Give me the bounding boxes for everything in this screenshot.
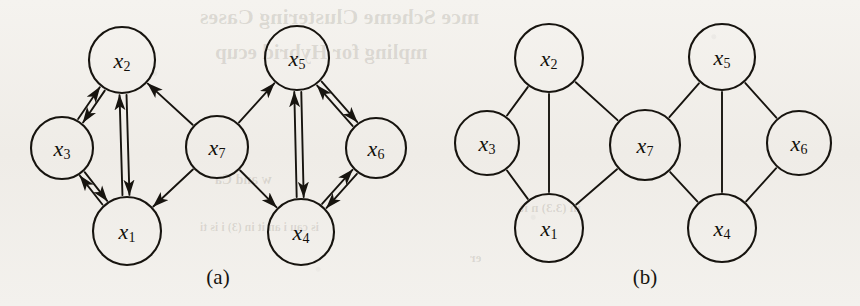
edge-x1-x7 — [576, 169, 617, 204]
arrow-x7-to-x4 — [240, 170, 276, 207]
arrow-x7-to-x5 — [239, 83, 274, 122]
arrow-x5-to-x4 — [301, 92, 303, 197]
panel-a-nodes: x2x3x1x7x5x6x4 — [31, 26, 406, 265]
caption-a: (a) — [206, 265, 229, 289]
node-label-x5: x5 — [713, 45, 731, 71]
arrow-x7-to-x1 — [153, 170, 193, 207]
arrow-x1-to-x2 — [120, 95, 123, 195]
edge-x2-x7 — [576, 82, 618, 120]
node-label-x1: x1 — [540, 216, 558, 242]
node-x2[interactable]: x2 — [515, 24, 583, 92]
node-x1[interactable]: x1 — [93, 197, 161, 265]
node-x6[interactable]: x6 — [767, 111, 831, 175]
node-x6[interactable]: x6 — [346, 118, 406, 178]
node-label-x6: x6 — [790, 131, 808, 157]
caption-b: (b) — [633, 265, 658, 289]
edge-x4-x6 — [746, 168, 776, 201]
figure-container: mce Scheme Clustering Casesmpling for Hy… — [0, 0, 860, 306]
node-x5[interactable]: x5 — [689, 24, 755, 90]
node-label-x2: x2 — [540, 46, 558, 72]
edge-x7-x5 — [669, 83, 699, 117]
node-x1[interactable]: x1 — [515, 194, 583, 262]
edge-x7-x4 — [670, 172, 697, 201]
node-x5[interactable]: x5 — [265, 26, 329, 90]
node-label-x2: x2 — [113, 48, 131, 74]
arrow-x7-to-x2 — [148, 84, 193, 125]
node-label-x5: x5 — [288, 46, 306, 72]
node-label-x4: x4 — [292, 220, 310, 246]
arrow-x5-to-x6 — [322, 82, 357, 122]
graph-canvas: x2x3x1x7x5x6x4 x2x3x1x7x5x6x4 (a)(b) — [0, 0, 860, 306]
arrow-x4-to-x5 — [294, 92, 296, 197]
node-x4[interactable]: x4 — [268, 199, 334, 265]
node-x4[interactable]: x4 — [688, 194, 756, 262]
node-label-x3: x3 — [478, 131, 496, 157]
panel-captions: (a)(b) — [206, 265, 657, 289]
arrow-x6-to-x4 — [327, 174, 357, 208]
arrow-x2-to-x1 — [127, 95, 130, 195]
node-label-x1: x1 — [118, 219, 136, 245]
panel-b-nodes: x2x3x1x7x5x6x4 — [455, 24, 831, 262]
node-label-x7: x7 — [636, 133, 654, 159]
arrow-x6-to-x5 — [317, 86, 352, 126]
node-label-x6: x6 — [367, 136, 385, 162]
edge-x3-x1 — [507, 170, 528, 198]
node-x7[interactable]: x7 — [610, 110, 680, 180]
node-x2[interactable]: x2 — [89, 27, 155, 93]
node-x3[interactable]: x3 — [455, 111, 519, 175]
arrow-x4-to-x6 — [322, 170, 352, 204]
node-x7[interactable]: x7 — [186, 116, 248, 178]
edge-x5-x6 — [745, 83, 776, 118]
node-label-x3: x3 — [53, 136, 71, 162]
node-label-x7: x7 — [208, 135, 226, 161]
node-x3[interactable]: x3 — [31, 117, 93, 179]
node-label-x4: x4 — [713, 216, 731, 242]
edge-x2-x3 — [507, 87, 528, 115]
